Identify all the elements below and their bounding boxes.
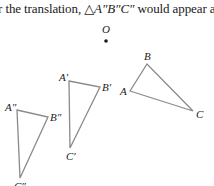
- label-c-prime: C′: [66, 151, 76, 162]
- triangle-a-prime-b-prime-c-prime: [69, 81, 100, 148]
- label-a-double-prime: A″: [5, 102, 16, 113]
- label-b: B: [144, 51, 151, 62]
- label-o: O: [102, 24, 110, 35]
- label-c-double-prime: C″: [14, 181, 26, 186]
- label-b-double-prime: B″: [50, 112, 61, 123]
- label-c: C: [196, 109, 203, 120]
- label-a: A: [120, 86, 127, 97]
- point-o-dot: [104, 39, 108, 43]
- triangle-a-double-prime-b-double-prime-c-double-prime: [17, 110, 48, 178]
- triangle-abc: [130, 64, 193, 111]
- label-a-prime: A′: [59, 72, 68, 83]
- label-b-prime: B′: [102, 82, 111, 93]
